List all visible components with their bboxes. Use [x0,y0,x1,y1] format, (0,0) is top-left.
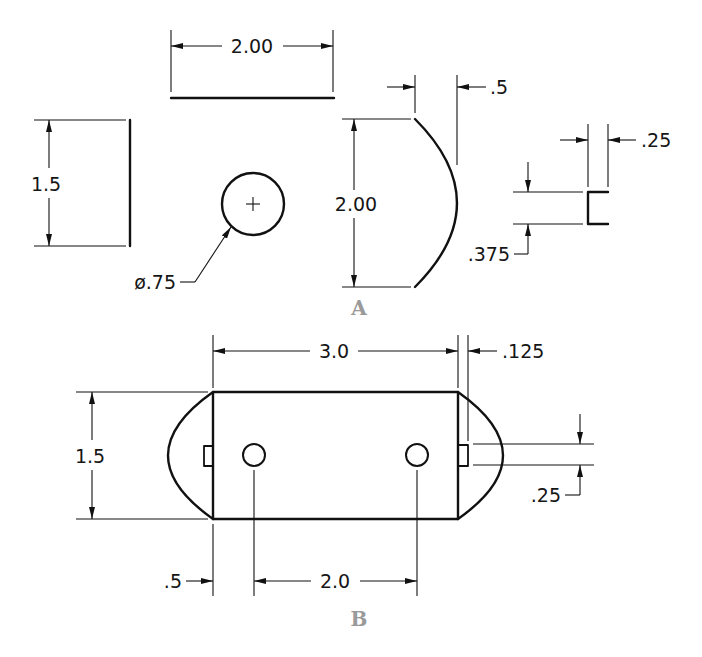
dim-3-0: 3.0 [319,340,349,362]
dim-point-5-arc: .5 [490,76,508,98]
left-slot [204,446,213,466]
bracket-geometry [588,192,608,224]
dim-1-5-left: 1.5 [31,173,61,195]
overall-length-dimension: 3.0 [213,335,458,388]
dim-point-25-slot: .25 [531,484,561,506]
plate-height-dimension: 1.5 [75,392,208,519]
panel-a: 2.00 1.5 ø.75 2.00 [31,30,671,320]
hole-spacing-dimension: 2.0 [254,470,417,596]
technical-drawing: 2.00 1.5 ø.75 2.00 [0,0,702,657]
dim-point-125: .125 [502,340,544,362]
dim-2-00-arc: 2.00 [335,193,377,215]
hole-offset-dimension: .5 [164,524,213,596]
dim-point-25-bracket: .25 [641,129,671,151]
right-hole [406,444,428,466]
dim-1-5-plate: 1.5 [75,445,105,467]
right-slot [458,445,468,466]
vertical-line-dimension: 1.5 [31,120,126,246]
dim-point-5-hole: .5 [164,570,182,592]
left-hole [243,444,265,466]
dim-2-00-top: 2.00 [231,35,273,57]
panel-label-b: B [351,607,368,631]
slot-width-dimension: .25 [473,414,594,506]
panel-label-a: A [350,296,367,320]
line-length-dimension: 2.00 [171,30,333,92]
arc-geometry [415,119,457,287]
bracket-height-dimension: .375 [468,162,583,265]
panel-b: 3.0 .125 1.5 .25 .5 [75,335,594,631]
circle-diameter-leader: ø.75 [134,227,231,293]
arc-chord-dimension: 2.00 [335,119,411,287]
dim-diameter-75: ø.75 [134,271,176,293]
circle-geometry [222,173,284,235]
arc-depth-dimension: .5 [387,75,508,165]
bracket-width-dimension: .25 [560,124,671,187]
plate-geometry [168,392,503,519]
slot-depth-dimension: .125 [468,335,544,441]
dim-2-0: 2.0 [320,570,350,592]
dim-point-375: .375 [468,243,510,265]
